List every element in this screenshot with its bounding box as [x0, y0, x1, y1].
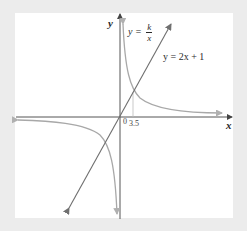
line-label: y = 2x + 1 — [163, 52, 204, 62]
graph-canvas — [0, 0, 247, 231]
fraction-numerator: k — [146, 22, 152, 33]
fraction-denominator: x — [147, 33, 151, 43]
origin-label: 0 — [123, 118, 127, 126]
hyperbola-fraction: k x — [146, 22, 152, 43]
y-axis-label: y — [108, 18, 113, 29]
hyperbola-label: y = k x — [128, 22, 152, 43]
x-axis-label: x — [226, 120, 232, 131]
hyperbola-label-lhs: y = — [128, 26, 142, 37]
hyperbola-branch-q3 — [18, 120, 117, 214]
x-tick-3-5: 3.5 — [129, 120, 139, 128]
